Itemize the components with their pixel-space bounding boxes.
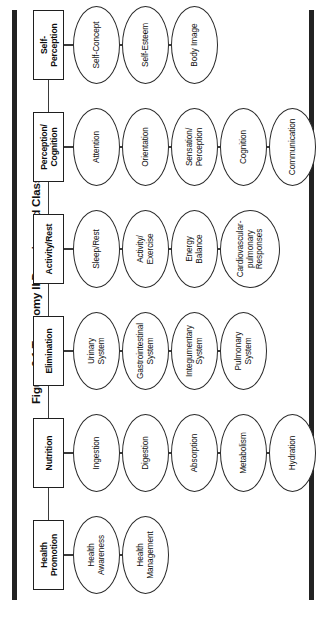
class-oval-self-perception-2[interactable]: Body Image xyxy=(171,6,218,84)
domain-label-self-perception: Self-Perception xyxy=(39,23,59,66)
class-label: Digestion xyxy=(141,436,151,470)
class-oval-elimination-0[interactable]: UrinarySystem xyxy=(73,312,120,390)
class-oval-activity-rest-0[interactable]: Sleep/Rest xyxy=(73,210,120,288)
class-oval-elimination-2[interactable]: IntegumentarySystem xyxy=(171,312,218,390)
class-connector xyxy=(64,350,73,351)
figure-taxonomy-diagram: Figure 2.1 Taxonomy II Domains and Class… xyxy=(0,0,326,617)
class-label: Self-Concept xyxy=(92,22,102,69)
class-label: IntegumentarySystem xyxy=(185,325,204,377)
class-oval-health-promotion-0[interactable]: HealthAwareness xyxy=(73,516,120,594)
domain-box-perception-cognition[interactable]: Perception/Cognition xyxy=(33,112,64,182)
class-label: Body Image xyxy=(190,23,200,66)
class-oval-perception-cognition-2[interactable]: Sensation/Perception xyxy=(171,108,218,186)
class-label: Communication xyxy=(288,119,298,175)
class-oval-nutrition-2[interactable]: Absorption xyxy=(171,414,218,492)
class-label: Absorption xyxy=(190,434,200,473)
domain-label-nutrition: Nutrition xyxy=(44,436,54,471)
class-oval-self-perception-1[interactable]: Self-Esteem xyxy=(122,6,169,84)
class-label: Activity/Exercise xyxy=(136,233,155,264)
class-label: Ingestion xyxy=(92,437,102,470)
class-oval-perception-cognition-4[interactable]: Communication xyxy=(269,108,316,186)
class-oval-activity-rest-3[interactable]: Cardiovascular-pulmonaryResponses xyxy=(220,210,280,288)
class-label: UrinarySystem xyxy=(87,337,106,364)
class-oval-elimination-1[interactable]: GastrointestinalSystem xyxy=(122,312,169,390)
class-oval-nutrition-0[interactable]: Ingestion xyxy=(73,414,120,492)
class-connector xyxy=(64,452,73,453)
domain-label-health-promotion: HealthPromotion xyxy=(39,534,59,576)
domain-label-activity-rest: Activity/Rest xyxy=(44,224,54,275)
title-rule xyxy=(12,10,17,600)
domain-spine-connector xyxy=(48,284,49,316)
class-label: EnergyBalance xyxy=(185,234,204,263)
class-label: Orientation xyxy=(141,127,151,167)
class-oval-perception-cognition-1[interactable]: Orientation xyxy=(122,108,169,186)
domain-box-health-promotion[interactable]: HealthPromotion xyxy=(33,520,64,590)
class-oval-perception-cognition-3[interactable]: Cognition xyxy=(220,108,267,186)
domain-box-activity-rest[interactable]: Activity/Rest xyxy=(33,214,64,284)
class-connector xyxy=(64,44,73,45)
domain-spine-connector xyxy=(48,488,49,520)
domain-spine-connector xyxy=(48,386,49,418)
class-oval-elimination-3[interactable]: PulmonarySystem xyxy=(220,312,267,390)
class-oval-health-promotion-1[interactable]: HealthManagement xyxy=(122,516,169,594)
class-oval-perception-cognition-0[interactable]: Attention xyxy=(73,108,120,186)
class-oval-nutrition-1[interactable]: Digestion xyxy=(122,414,169,492)
right-edge-rule xyxy=(309,10,314,600)
class-label: HealthManagement xyxy=(136,531,155,578)
domain-label-perception-cognition: Perception/Cognition xyxy=(39,124,59,170)
class-oval-activity-rest-2[interactable]: EnergyBalance xyxy=(171,210,218,288)
domain-spine-connector xyxy=(48,182,49,214)
class-label: Sensation/Perception xyxy=(185,128,204,167)
class-label: PulmonarySystem xyxy=(234,332,253,371)
class-label: Cardiovascular-pulmonaryResponses xyxy=(236,221,265,278)
class-oval-nutrition-3[interactable]: Metabolism xyxy=(220,414,267,492)
class-label: Cognition xyxy=(239,130,249,164)
class-oval-self-perception-0[interactable]: Self-Concept xyxy=(73,6,120,84)
class-label: Metabolism xyxy=(239,432,249,473)
class-oval-nutrition-4[interactable]: Hydration xyxy=(269,414,316,492)
class-connector xyxy=(64,248,73,249)
class-oval-activity-rest-1[interactable]: Activity/Exercise xyxy=(122,210,169,288)
domain-box-nutrition[interactable]: Nutrition xyxy=(33,418,64,488)
class-label: Self-Esteem xyxy=(141,23,151,67)
class-label: GastrointestinalSystem xyxy=(136,323,155,379)
class-label: Sleep/Rest xyxy=(92,229,102,269)
class-label: Attention xyxy=(92,131,102,163)
class-connector xyxy=(64,554,73,555)
domain-label-elimination: Elimination xyxy=(44,328,54,373)
class-connector xyxy=(64,146,73,147)
domain-box-self-perception[interactable]: Self-Perception xyxy=(33,10,64,80)
domain-spine-connector xyxy=(48,80,49,112)
class-label: Hydration xyxy=(288,436,298,471)
class-label: HealthAwareness xyxy=(87,535,106,575)
domain-box-elimination[interactable]: Elimination xyxy=(33,316,64,386)
